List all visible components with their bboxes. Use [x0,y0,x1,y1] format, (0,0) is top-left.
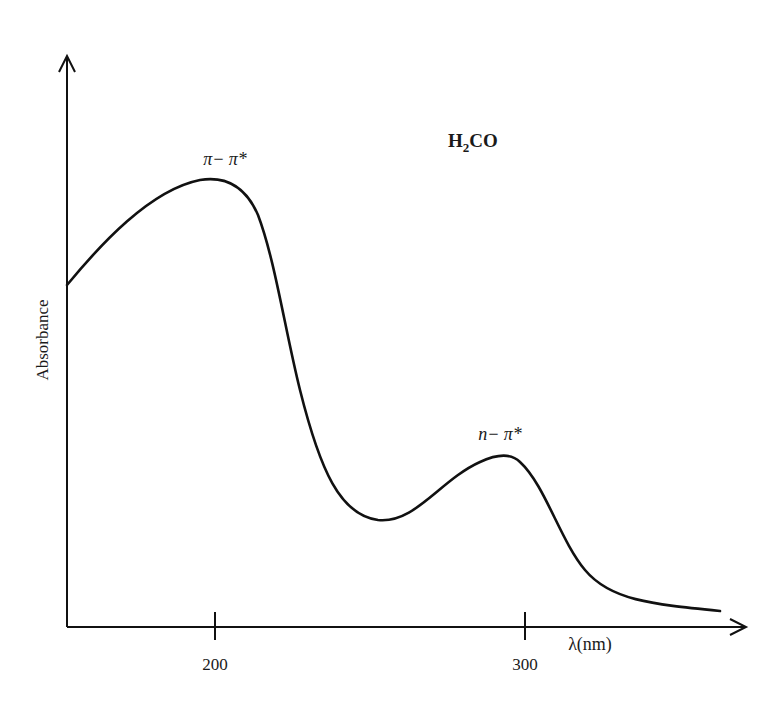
absorbance-curve [67,179,720,611]
x-tick-label-200: 200 [202,655,228,674]
molecule-title-rest: CO [469,130,498,151]
x-axis-label: λ(nm) [568,634,612,655]
absorbance-chart: 200 300 λ(nm) Absorbance π− π* n− π* H2C… [0,0,777,705]
y-axis-label: Absorbance [33,299,52,380]
pi-pi-star-label: π− π* [203,149,247,169]
molecule-title-main: H [448,130,463,151]
molecule-title: H2CO [448,130,498,155]
n-pi-star-label: n− π* [478,424,522,444]
x-tick-label-300: 300 [512,655,538,674]
